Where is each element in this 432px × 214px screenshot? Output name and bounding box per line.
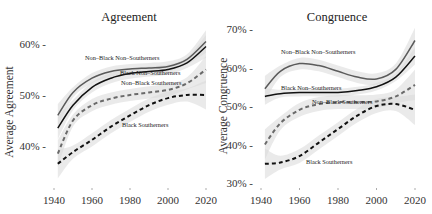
x-tick-label: 2000 (366, 194, 389, 206)
y-tick-label: 40% - (226, 139, 253, 151)
agreement-panel: Agreement Average Agreement 40% -50% -60… (3, 10, 218, 206)
congruence-x-ticks: 19401960198020002020 (250, 188, 427, 206)
y-tick-label: 50% - (226, 100, 253, 112)
x-tick-label: 2020 (404, 194, 427, 206)
agreement-label-nbns: Non–Black Non–Southerners (85, 54, 160, 61)
x-tick-label: 2020 (195, 194, 218, 206)
congruence-label-bns: Black Non–Southerners (281, 84, 342, 91)
agreement-title: Agreement (101, 10, 157, 24)
y-tick-label: 70% - (226, 23, 253, 35)
agreement-confidence-bands (58, 30, 206, 178)
y-tick-label: 60% - (226, 62, 253, 74)
y-tick-label: 60% - (19, 38, 46, 50)
congruence-label-nbs: Non–Black Southerners (312, 98, 373, 105)
figure: Agreement Average Agreement 40% -50% -60… (0, 0, 432, 214)
y-tick-label: 50% - (19, 89, 46, 101)
x-tick-label: 1940 (43, 194, 66, 206)
y-tick-label: 40% - (19, 140, 46, 152)
x-tick-label: 1960 (81, 194, 104, 206)
agreement-y-ticks: 40% -50% -60% - (19, 38, 46, 152)
congruence-panel: Congruence Average Congruence 30% -40% -… (217, 10, 427, 206)
congruence-label-bs: Black Southerners (306, 158, 353, 165)
x-tick-label: 1940 (250, 194, 273, 206)
congruence-y-ticks: 30% -40% -50% -60% -70% - (226, 23, 253, 189)
congruence-title: Congruence (307, 10, 368, 24)
congruence-label-nbns: Non–Black Non–Southerners (281, 48, 356, 55)
agreement-label-nbs: Non–Black Southerners (121, 79, 182, 86)
y-tick-label: 30% - (226, 177, 253, 189)
x-tick-label: 1960 (289, 194, 312, 206)
agreement-label-bns: Black Non–Southerners (120, 69, 181, 76)
x-tick-label: 2000 (157, 194, 180, 206)
x-tick-label: 1980 (119, 194, 142, 206)
x-tick-label: 1980 (327, 194, 350, 206)
agreement-y-axis-label: Average Agreement (3, 65, 16, 157)
agreement-x-ticks: 19401960198020002020 (43, 188, 218, 206)
agreement-label-bs: Black Southerners (122, 121, 169, 128)
